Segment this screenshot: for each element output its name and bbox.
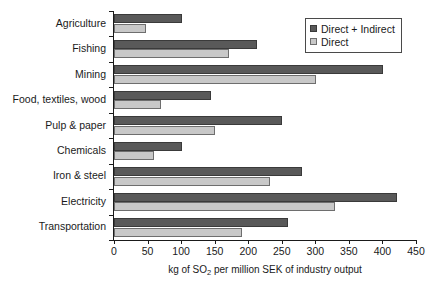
x-axis-tick-label: 450 <box>399 245 433 257</box>
category-label-pulp-paper: Pulp & paper <box>0 120 106 131</box>
category-axis: AgricultureFishingMiningFood, textiles, … <box>0 11 110 240</box>
bar-mining-total <box>114 65 383 74</box>
legend-label: Direct + Indirect <box>321 23 395 35</box>
x-axis-title: kg of SO2 per million SEK of industry ou… <box>114 264 416 277</box>
bar-pulp-paper-total <box>114 116 282 125</box>
category-tick <box>109 11 114 12</box>
legend-item-direct: Direct <box>310 35 395 48</box>
bar-electricity-direct <box>114 202 335 211</box>
category-tick <box>109 87 114 88</box>
category-tick <box>109 36 114 37</box>
bar-iron-steel-direct <box>114 177 270 186</box>
category-label-electricity: Electricity <box>0 196 106 207</box>
bar-agriculture-total <box>114 14 182 23</box>
bar-fishing-total <box>114 40 257 49</box>
bar-transportation-total <box>114 218 288 227</box>
legend-swatch-icon <box>310 38 317 45</box>
bar-transportation-direct <box>114 228 242 237</box>
value-axis-baseline <box>113 240 416 241</box>
category-tick <box>109 189 114 190</box>
x-axis-tick <box>181 240 182 244</box>
category-label-chemicals: Chemicals <box>0 145 106 156</box>
x-axis-tick <box>416 240 417 244</box>
x-axis-tick-label: 350 <box>332 245 366 257</box>
legend-label: Direct <box>321 36 348 48</box>
x-axis-tick <box>282 240 283 244</box>
category-tick <box>109 138 114 139</box>
legend-item-direct-indirect: Direct + Indirect <box>310 22 395 35</box>
chart-legend: Direct + IndirectDirect <box>305 18 402 53</box>
category-tick <box>109 62 114 63</box>
x-axis-tick <box>215 240 216 244</box>
category-label-food-textiles-wood: Food, textiles, wood <box>0 94 106 105</box>
x-axis-tick-label: 50 <box>131 245 165 257</box>
x-axis-tick-label: 200 <box>231 245 265 257</box>
x-axis-tick <box>382 240 383 244</box>
category-tick <box>109 215 114 216</box>
legend-swatch-icon <box>310 25 317 32</box>
x-axis-tick-label: 0 <box>97 245 131 257</box>
bar-electricity-total <box>114 193 397 202</box>
x-axis-tick-label: 300 <box>298 245 332 257</box>
x-axis-tick <box>148 240 149 244</box>
category-tick <box>109 113 114 114</box>
x-axis-tick <box>349 240 350 244</box>
so2-intensity-bar-chart: AgricultureFishingMiningFood, textiles, … <box>0 0 434 291</box>
bar-iron-steel-total <box>114 167 302 176</box>
category-label-fishing: Fishing <box>0 43 106 54</box>
x-axis-tick-label: 150 <box>198 245 232 257</box>
bar-mining-direct <box>114 75 316 84</box>
bar-food-textiles-wood-direct <box>114 100 161 109</box>
category-label-mining: Mining <box>0 69 106 80</box>
bar-pulp-paper-direct <box>114 126 215 135</box>
bar-food-textiles-wood-total <box>114 91 211 100</box>
x-axis-tick-label: 100 <box>164 245 198 257</box>
x-axis-tick <box>315 240 316 244</box>
category-label-agriculture: Agriculture <box>0 18 106 29</box>
bar-chemicals-direct <box>114 151 154 160</box>
x-axis-tick <box>114 240 115 244</box>
category-label-transportation: Transportation <box>0 221 106 232</box>
category-label-iron-steel: Iron & steel <box>0 170 106 181</box>
bar-fishing-direct <box>114 49 229 58</box>
x-axis-tick-label: 400 <box>365 245 399 257</box>
category-tick <box>109 164 114 165</box>
so2-subscript: 2 <box>207 268 211 277</box>
x-axis-tick <box>248 240 249 244</box>
bar-agriculture-direct <box>114 24 146 33</box>
bar-chemicals-total <box>114 142 182 151</box>
x-axis-tick-label: 250 <box>265 245 299 257</box>
